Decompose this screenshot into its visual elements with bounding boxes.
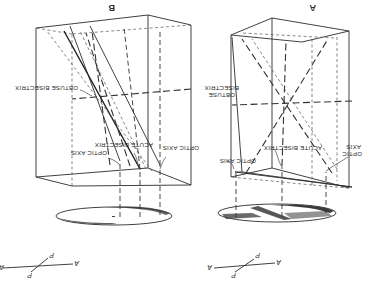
panel-a-label-optic-axis-left: OPTIC AXIS xyxy=(220,158,256,165)
panel-a-label-optic-axis-right-1: OPTIC xyxy=(342,151,362,158)
panel-a-analyzer-right: A xyxy=(207,264,213,271)
panel-a-label-obtuse-1: OBTUSE xyxy=(208,92,235,99)
panel-a-label-acute-bisectrix: ACUTE BISECTRIX xyxy=(264,145,322,152)
panel-a-polarizer-indicator: A A P P xyxy=(207,252,282,279)
panel-b: A A P P xyxy=(0,3,199,279)
panel-a-label-optic-axis-right-2: AXIS xyxy=(346,144,361,151)
panel-b-label-acute-bisectrix: ACUTE BISECTRIX xyxy=(95,142,153,149)
panel-b-analyzer-right: A xyxy=(0,264,5,271)
panel-a-analyzer-left: A xyxy=(276,259,282,266)
panel-b-label-optic-axis-right: OPTIC AXIS xyxy=(163,145,199,152)
panel-b-polarizer-bottom: P xyxy=(49,252,54,259)
panel-b-label-obtuse-bisectrix: OBTUSE BISECTRIX xyxy=(15,85,78,92)
panel-a-polarizer-bottom: P xyxy=(255,252,260,259)
panel-b-polarizer-indicator: A A P P xyxy=(0,252,80,279)
panel-a-title: A xyxy=(309,3,316,13)
panel-b-polarizer-top: P xyxy=(27,272,32,279)
panel-b-analyzer-left: A xyxy=(74,260,80,267)
panel-a-label-obtuse-2: BISECTRIX xyxy=(205,85,239,92)
panel-b-title: B xyxy=(108,3,115,13)
crystal-optics-diagram: A A P P xyxy=(0,0,392,289)
panel-b-interference-figure xyxy=(56,207,172,225)
panel-a-polarizer-top: P xyxy=(231,272,236,279)
panel-a: A A P P xyxy=(205,3,362,279)
panel-b-label-optic-axis-left: OPTIC AXIS xyxy=(71,150,107,157)
